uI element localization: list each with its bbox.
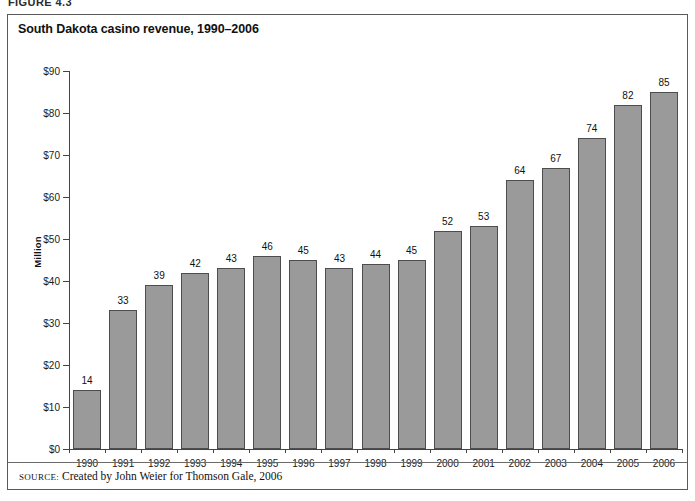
chart-title: South Dakota casino revenue, 1990–2006	[18, 22, 259, 36]
bar[interactable]	[289, 260, 317, 449]
bar[interactable]	[217, 268, 245, 449]
bar-value-label: 43	[226, 253, 237, 264]
bar-value-label: 33	[118, 295, 129, 306]
x-axis-tick	[285, 449, 286, 453]
bar[interactable]	[578, 138, 606, 449]
x-axis-tick	[357, 449, 358, 453]
y-axis-tick	[63, 71, 69, 72]
x-axis-tick-label: 2001	[473, 458, 495, 469]
x-axis-tick	[610, 449, 611, 453]
y-axis-tick-label: $40	[43, 276, 60, 287]
bar[interactable]	[109, 310, 137, 449]
y-axis-tick-label: $10	[43, 402, 60, 413]
source-note: SOURCE: Created by John Weier for Thomso…	[19, 470, 282, 482]
x-axis-tick-label: 2006	[653, 458, 675, 469]
source-divider	[8, 462, 687, 463]
bar-value-label: 52	[442, 216, 453, 227]
x-axis-tick	[646, 449, 647, 453]
x-axis-tick-label: 2004	[581, 458, 603, 469]
y-axis-tick	[63, 155, 69, 156]
bar[interactable]	[362, 264, 390, 449]
bar[interactable]	[506, 180, 534, 449]
x-axis-tick-label: 2000	[436, 458, 458, 469]
bar[interactable]	[650, 92, 678, 449]
x-axis-tick-label: 2005	[617, 458, 639, 469]
x-axis-tick-label: 1993	[184, 458, 206, 469]
y-axis-tick-label: $80	[43, 108, 60, 119]
plot-area: $0$10$20$30$40$50$60$70$80$90 1433394243…	[69, 71, 682, 449]
x-axis-tick-label: 2003	[545, 458, 567, 469]
y-axis-tick-label: $0	[49, 444, 60, 455]
y-axis-tick	[63, 197, 69, 198]
bar[interactable]	[398, 260, 426, 449]
bar-value-label: 46	[262, 241, 273, 252]
x-axis-tick-label: 1997	[328, 458, 350, 469]
x-axis-tick	[466, 449, 467, 453]
bar-value-label: 74	[586, 123, 597, 134]
x-axis-tick	[682, 449, 683, 453]
bar[interactable]	[253, 256, 281, 449]
y-axis-tick-label: $30	[43, 318, 60, 329]
bar[interactable]	[542, 168, 570, 449]
x-axis-tick	[394, 449, 395, 453]
x-axis-tick	[249, 449, 250, 453]
bar[interactable]	[73, 390, 101, 449]
bar[interactable]	[181, 273, 209, 449]
bar-value-label: 43	[334, 253, 345, 264]
y-axis-tick-label: $60	[43, 192, 60, 203]
y-axis-tick-label: $90	[43, 66, 60, 77]
x-axis-tick	[430, 449, 431, 453]
bar[interactable]	[470, 226, 498, 449]
bar[interactable]	[614, 105, 642, 449]
figure-box: South Dakota casino revenue, 1990–2006 M…	[7, 14, 688, 490]
bar-value-label: 45	[406, 245, 417, 256]
y-axis-tick	[63, 365, 69, 366]
x-axis-tick	[502, 449, 503, 453]
x-axis-tick	[141, 449, 142, 453]
x-axis-tick	[177, 449, 178, 453]
y-axis-tick-label: $70	[43, 150, 60, 161]
bar-value-label: 42	[190, 258, 201, 269]
source-text: Created by John Weier for Thomson Gale, …	[59, 470, 282, 482]
x-axis-tick-label: 1999	[400, 458, 422, 469]
y-axis-tick	[63, 407, 69, 408]
bar-value-label: 14	[81, 375, 92, 386]
bar-value-label: 45	[298, 245, 309, 256]
source-prefix: SOURCE:	[19, 472, 59, 482]
x-axis-tick-label: 2002	[509, 458, 531, 469]
x-axis-tick	[321, 449, 322, 453]
bar-value-label: 64	[514, 165, 525, 176]
bar[interactable]	[434, 231, 462, 449]
x-axis-tick-label: 1991	[112, 458, 134, 469]
bar-value-label: 85	[658, 77, 669, 88]
x-axis-tick	[213, 449, 214, 453]
x-axis-tick-label: 1998	[364, 458, 386, 469]
bar-value-label: 67	[550, 153, 561, 164]
y-axis-tick-label: $50	[43, 234, 60, 245]
x-axis-tick-label: 1992	[148, 458, 170, 469]
x-axis-line	[69, 449, 682, 450]
x-axis-tick	[69, 449, 70, 453]
x-axis-tick	[105, 449, 106, 453]
x-axis-tick-label: 1990	[76, 458, 98, 469]
bar[interactable]	[145, 285, 173, 449]
y-axis-tick	[63, 113, 69, 114]
y-axis-tick	[63, 281, 69, 282]
y-axis-tick	[63, 323, 69, 324]
bar-value-label: 82	[622, 90, 633, 101]
y-axis-tick	[63, 239, 69, 240]
y-axis-line	[69, 71, 70, 449]
x-axis-tick-label: 1996	[292, 458, 314, 469]
bar-value-label: 53	[478, 211, 489, 222]
x-axis-tick-label: 1994	[220, 458, 242, 469]
x-axis-tick-label: 1995	[256, 458, 278, 469]
bar-value-label: 39	[154, 270, 165, 281]
x-axis-tick	[538, 449, 539, 453]
figure-number-label: FIGURE 4.3	[8, 0, 72, 8]
y-axis-tick-label: $20	[43, 360, 60, 371]
y-axis-title: Million	[32, 236, 43, 267]
bar-value-label: 44	[370, 249, 381, 260]
bar[interactable]	[325, 268, 353, 449]
x-axis-tick	[574, 449, 575, 453]
